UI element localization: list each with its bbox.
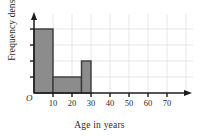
x-tick-label: 50 bbox=[119, 98, 139, 108]
y-axis-arrow bbox=[31, 12, 37, 20]
plot-area bbox=[0, 0, 199, 139]
histogram-bar bbox=[82, 61, 92, 93]
histogram-bar bbox=[53, 77, 82, 93]
histogram-chart: O 10 20 30 40 50 60 70 Frequency density… bbox=[0, 0, 199, 139]
x-axis-title: Age in years bbox=[0, 120, 199, 130]
x-tick-label: 10 bbox=[43, 98, 63, 108]
x-tick-label: 20 bbox=[62, 98, 82, 108]
x-axis-arrow bbox=[184, 90, 192, 96]
origin-label: O bbox=[26, 93, 33, 103]
x-tick-label: 30 bbox=[81, 98, 101, 108]
x-tick-label: 70 bbox=[157, 98, 177, 108]
histogram-bar bbox=[34, 29, 53, 93]
grid-horizontal bbox=[34, 29, 193, 77]
x-tick-label: 40 bbox=[100, 98, 120, 108]
y-axis-title: Frequency density bbox=[7, 0, 17, 69]
x-tick-label: 60 bbox=[138, 98, 158, 108]
